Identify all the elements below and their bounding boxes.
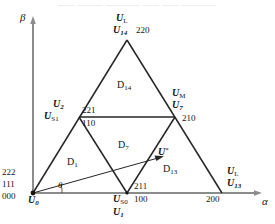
inner-triangle-edges [79, 117, 175, 193]
theta-angle-arc [61, 185, 62, 193]
beta-axis [30, 16, 36, 193]
alpha-axis [33, 190, 262, 196]
space-vector-diagram: —— ——— ———— —— —— ———— [0, 0, 275, 224]
scan-bleedthrough-text: —— ——— ———— —— —— ———— [58, 0, 273, 13]
diagram-canvas [0, 0, 275, 224]
